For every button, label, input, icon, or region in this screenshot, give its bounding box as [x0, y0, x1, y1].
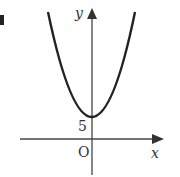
x-axis-label: x: [151, 145, 159, 161]
corner-mark: [0, 15, 4, 25]
y-axis-arrow-icon: [87, 8, 97, 19]
y-axis-label: y: [74, 5, 84, 21]
origin-label: O: [78, 144, 89, 160]
x-axis-arrow-icon: [152, 134, 164, 144]
y-intercept-label: 5: [78, 118, 87, 134]
graph-canvas: y x 5 O: [0, 0, 180, 177]
